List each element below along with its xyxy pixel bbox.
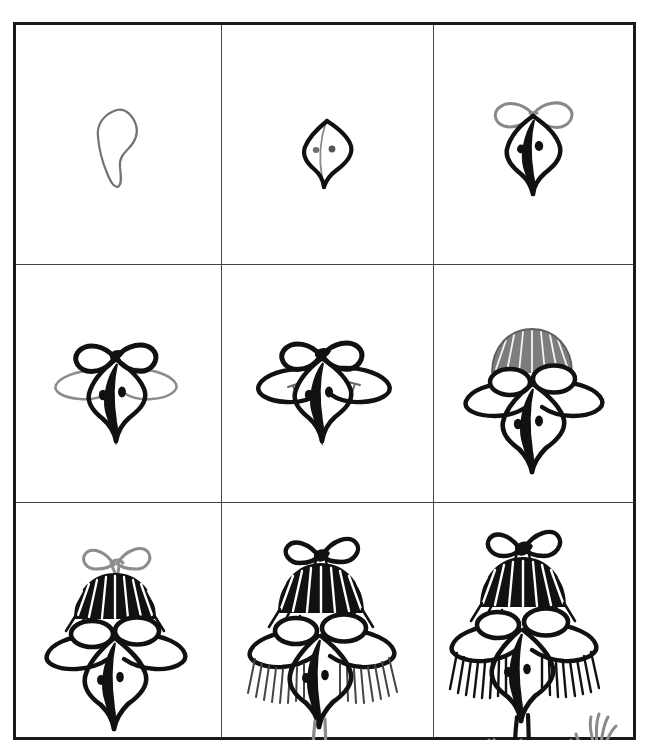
tutorial-panel-5 — [222, 265, 433, 502]
eyelid-right — [115, 618, 159, 645]
eye-right — [118, 387, 126, 398]
bow-guide-top — [84, 549, 150, 573]
head-outline-ink — [304, 121, 351, 187]
eye-left — [514, 419, 522, 429]
eye-left — [99, 390, 107, 400]
eye-left — [517, 145, 525, 154]
eyelid-right — [524, 609, 568, 636]
beak-ink — [105, 364, 117, 442]
eye-right — [325, 387, 333, 398]
head-outline-guide — [98, 110, 137, 187]
eyelid-right — [322, 615, 366, 642]
beak-ink — [523, 120, 534, 195]
eye-right — [535, 416, 543, 427]
eye-right — [535, 141, 543, 151]
eye-left — [302, 673, 310, 683]
eye-dot-left — [313, 147, 319, 153]
eye-left — [97, 675, 105, 685]
eye-right — [116, 672, 124, 682]
tutorial-panel-1 — [16, 25, 221, 264]
hand-right-guide — [576, 714, 616, 740]
tutorial-panel-3 — [434, 25, 633, 264]
tutorial-panel-9 — [434, 503, 633, 740]
eye-left — [504, 667, 512, 677]
centre-line-guide — [320, 122, 326, 177]
eye-right — [321, 670, 329, 680]
tutorial-panel-2 — [222, 25, 433, 264]
eye-dot-right — [329, 146, 336, 153]
eye-left — [305, 390, 313, 400]
tutorial-sheet — [0, 0, 654, 755]
tutorial-panel-8 — [222, 503, 433, 740]
tutorial-panel-4 — [16, 265, 221, 502]
tutorial-panel-6 — [434, 265, 633, 502]
beak-ink — [311, 363, 323, 442]
tutorial-panel-7 — [16, 503, 221, 740]
tutorial-grid-frame — [13, 22, 636, 740]
beak-ink — [521, 389, 533, 473]
eye-right — [523, 664, 531, 674]
